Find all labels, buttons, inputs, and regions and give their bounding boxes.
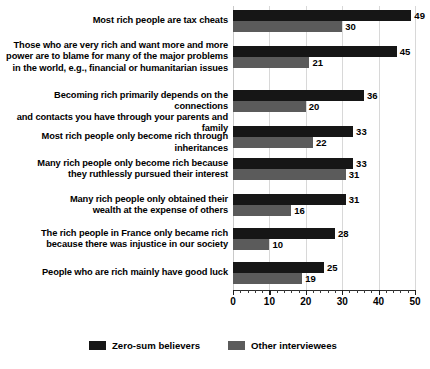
- gridline-50: [415, 6, 416, 290]
- bar-value-label: 31: [346, 169, 360, 180]
- category-label-line: Most rich people are tax cheats: [93, 15, 228, 25]
- legend-item: Other interviewees: [228, 338, 337, 352]
- bar-value-label: 21: [309, 57, 323, 68]
- legend-label: Zero-sum believers: [112, 340, 200, 351]
- category-label: Most rich people are tax cheats: [0, 15, 228, 26]
- x-tick-minor: [277, 290, 278, 293]
- bar-primary: 49: [233, 10, 411, 21]
- category-label-line: because there was injustice in our socie…: [46, 239, 228, 249]
- x-tick-major: [342, 290, 343, 295]
- category-label-line: Many rich people only obtained their: [70, 194, 228, 204]
- x-tick-minor: [349, 290, 350, 293]
- category-label: Many rich people only obtained theirweal…: [0, 194, 228, 216]
- x-tick-major: [269, 290, 270, 295]
- bar-primary: 33: [233, 158, 353, 169]
- x-tick-minor: [299, 290, 300, 293]
- x-tick-label: 10: [264, 296, 275, 307]
- x-tick-label: 30: [337, 296, 348, 307]
- bar-value-label: 22: [313, 137, 327, 148]
- x-tick-minor: [313, 290, 314, 293]
- legend-swatch: [89, 341, 106, 350]
- category-label: Most rich people only become rich throug…: [0, 131, 228, 153]
- bar-primary: 36: [233, 90, 364, 101]
- bar-group: 2810: [233, 228, 415, 252]
- x-tick-minor: [328, 290, 329, 293]
- legend-swatch: [228, 341, 245, 350]
- category-label-line: The rich people in France only became ri…: [41, 228, 228, 238]
- bar-value-label: 25: [324, 262, 338, 273]
- category-label-line: Those who are very rich and want more an…: [14, 40, 228, 50]
- x-tick-minor: [320, 290, 321, 293]
- bar-group: 3116: [233, 194, 415, 218]
- bar-group: 4521: [233, 46, 415, 70]
- bar-secondary: 10: [233, 239, 269, 250]
- bar-value-label: 33: [353, 158, 367, 169]
- bar-group: 3331: [233, 158, 415, 182]
- bar-secondary: 16: [233, 205, 291, 216]
- x-tick-minor: [408, 290, 409, 293]
- bar-secondary: 31: [233, 169, 346, 180]
- bar-value-label: 33: [353, 126, 367, 137]
- x-tick-minor: [284, 290, 285, 293]
- x-tick-major: [233, 290, 234, 295]
- bar-group: 3322: [233, 126, 415, 150]
- category-label-line: in the world, e.g., financial or humanit…: [13, 63, 228, 73]
- category-label-line: Many rich people only become rich becaus…: [37, 158, 228, 168]
- bar-value-label: 45: [397, 46, 411, 57]
- x-tick-minor: [386, 290, 387, 293]
- x-tick-minor: [335, 290, 336, 293]
- bar-value-label: 36: [364, 90, 378, 101]
- x-tick-label: 40: [373, 296, 384, 307]
- bar-primary: 45: [233, 46, 397, 57]
- x-tick-minor: [248, 290, 249, 293]
- bar-value-label: 16: [291, 205, 305, 216]
- bar-groups: 49304521362033223331311628102519: [233, 6, 415, 290]
- category-label-line: Becoming rich primarily depends on the c…: [54, 90, 228, 111]
- x-tick-minor: [291, 290, 292, 293]
- category-label-line: Most rich people only become rich throug…: [41, 131, 228, 152]
- x-tick-minor: [262, 290, 263, 293]
- category-labels: Most rich people are tax cheatsThose who…: [0, 6, 228, 290]
- chart-legend: Zero-sum believersOther interviewees: [0, 338, 430, 354]
- x-tick-minor: [393, 290, 394, 293]
- category-label-line: they ruthlessly pursued their interest: [68, 169, 228, 179]
- legend-item: Zero-sum believers: [89, 338, 200, 352]
- x-tick-minor: [255, 290, 256, 293]
- bar-group: 3620: [233, 90, 415, 114]
- bar-primary: 28: [233, 228, 335, 239]
- bar-value-label: 20: [306, 101, 320, 112]
- x-tick-minor: [371, 290, 372, 293]
- x-tick-minor: [240, 290, 241, 293]
- bar-value-label: 49: [411, 10, 425, 21]
- bar-secondary: 30: [233, 21, 342, 32]
- legend-label: Other interviewees: [251, 340, 337, 351]
- bar-value-label: 31: [346, 194, 360, 205]
- bar-value-label: 30: [342, 21, 356, 32]
- category-label: The rich people in France only became ri…: [0, 228, 228, 250]
- category-label: Many rich people only become rich becaus…: [0, 158, 228, 180]
- bar-secondary: 21: [233, 57, 309, 68]
- bar-value-label: 10: [269, 239, 283, 250]
- x-tick-minor: [357, 290, 358, 293]
- x-tick-minor: [400, 290, 401, 293]
- bar-secondary: 19: [233, 273, 302, 284]
- bar-secondary: 22: [233, 137, 313, 148]
- category-label-line: People who are rich mainly have good luc…: [42, 267, 228, 277]
- bar-secondary: 20: [233, 101, 306, 112]
- bar-primary: 31: [233, 194, 346, 205]
- bar-primary: 25: [233, 262, 324, 273]
- bar-value-label: 19: [302, 273, 316, 284]
- x-tick-label: 20: [300, 296, 311, 307]
- bar-group: 4930: [233, 10, 415, 34]
- x-tick-major: [379, 290, 380, 295]
- category-label-line: and contacts you have through your paren…: [17, 112, 228, 133]
- grouped-bar-chart: 49304521362033223331311628102519 Most ri…: [0, 0, 430, 369]
- x-axis-line: [233, 290, 415, 291]
- x-tick-major: [306, 290, 307, 295]
- category-label: People who are rich mainly have good luc…: [0, 267, 228, 278]
- x-tick-minor: [364, 290, 365, 293]
- x-tick-major: [415, 290, 416, 295]
- bar-primary: 33: [233, 126, 353, 137]
- category-label: Those who are very rich and want more an…: [0, 40, 228, 74]
- category-label-line: wealth at the expense of others: [93, 205, 228, 215]
